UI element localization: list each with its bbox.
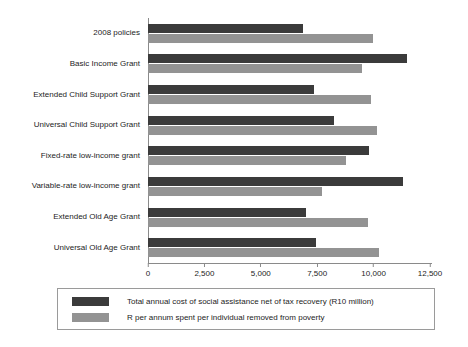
x-tick-label: 12,500 (418, 268, 442, 279)
x-tick: 10,000 (361, 263, 385, 279)
x-tick: 2,500 (194, 263, 214, 279)
x-tick: 7,500 (307, 263, 327, 279)
category-label: Universal Old Age Grant (0, 232, 143, 263)
bar-group (148, 171, 430, 202)
bar-series-b (148, 156, 346, 165)
category-label: Universal Child Support Grant (0, 110, 143, 141)
x-tick-mark (317, 263, 318, 267)
bar-series-b (148, 34, 373, 43)
category-label: 2008 policies (0, 18, 143, 49)
plot-area (148, 18, 430, 263)
legend-label: Total annual cost of social assistance n… (127, 296, 374, 307)
bar-group (148, 79, 430, 110)
x-tick-label: 10,000 (361, 268, 385, 279)
legend-label: R per annum spent per individual removed… (127, 312, 324, 323)
bar-series-b (148, 95, 371, 104)
bar-chart: 2008 policiesBasic Income GrantExtended … (0, 0, 468, 347)
legend-swatch (72, 313, 109, 322)
x-tick-mark (430, 263, 431, 267)
x-tick: 5,000 (251, 263, 271, 279)
bar-series-a (148, 24, 303, 33)
x-tick-mark (147, 263, 148, 267)
bar-group (148, 18, 430, 49)
bar-series-b (148, 187, 322, 196)
bar-group (148, 202, 430, 233)
bar-series-a (148, 146, 369, 155)
chart-legend: Total annual cost of social assistance n… (57, 288, 435, 330)
bar-group (148, 49, 430, 80)
bar-group (148, 232, 430, 263)
x-tick-mark (260, 263, 261, 267)
bar-series-a (148, 116, 334, 125)
legend-item: R per annum spent per individual removed… (58, 310, 434, 325)
x-tick-mark (204, 263, 205, 267)
x-tick-label: 0 (146, 268, 150, 279)
bar-series-b (148, 218, 368, 227)
x-tick-mark (373, 263, 374, 267)
bar-groups (148, 18, 430, 263)
bar-series-a (148, 177, 403, 186)
x-tick-label: 7,500 (307, 268, 327, 279)
category-label: Extended Old Age Grant (0, 202, 143, 233)
x-tick: 0 (146, 263, 150, 279)
x-axis-ticks: 02,5005,0007,50010,00012,500 (148, 263, 430, 283)
category-label: Basic Income Grant (0, 49, 143, 80)
category-label: Fixed-rate low-income grant (0, 141, 143, 172)
bar-series-b (148, 64, 362, 73)
x-tick: 12,500 (418, 263, 442, 279)
x-tick-label: 5,000 (251, 268, 271, 279)
category-label: Variable-rate low-income grant (0, 171, 143, 202)
bar-series-b (148, 126, 377, 135)
bar-series-b (148, 248, 379, 257)
category-axis-labels: 2008 policiesBasic Income GrantExtended … (0, 18, 143, 263)
bar-series-a (148, 85, 314, 94)
bar-series-a (148, 208, 306, 217)
bar-series-a (148, 238, 316, 247)
bar-group (148, 110, 430, 141)
legend-item: Total annual cost of social assistance n… (58, 294, 434, 309)
category-label: Extended Child Support Grant (0, 79, 143, 110)
bar-group (148, 141, 430, 172)
x-tick-label: 2,500 (194, 268, 214, 279)
bar-series-a (148, 54, 407, 63)
legend-swatch (72, 297, 109, 306)
